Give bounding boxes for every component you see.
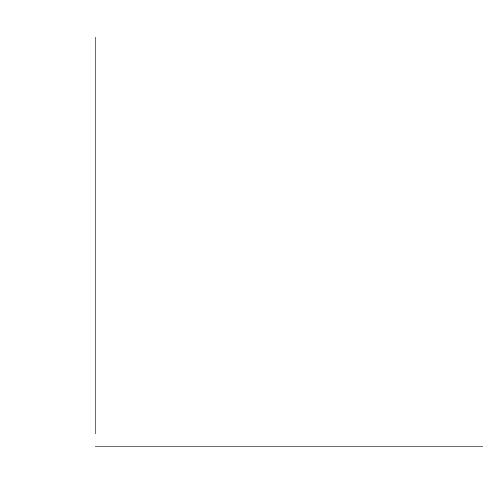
chart-canvas [0,0,503,493]
x-axis-line [95,446,483,447]
y-axis-line [95,37,96,434]
